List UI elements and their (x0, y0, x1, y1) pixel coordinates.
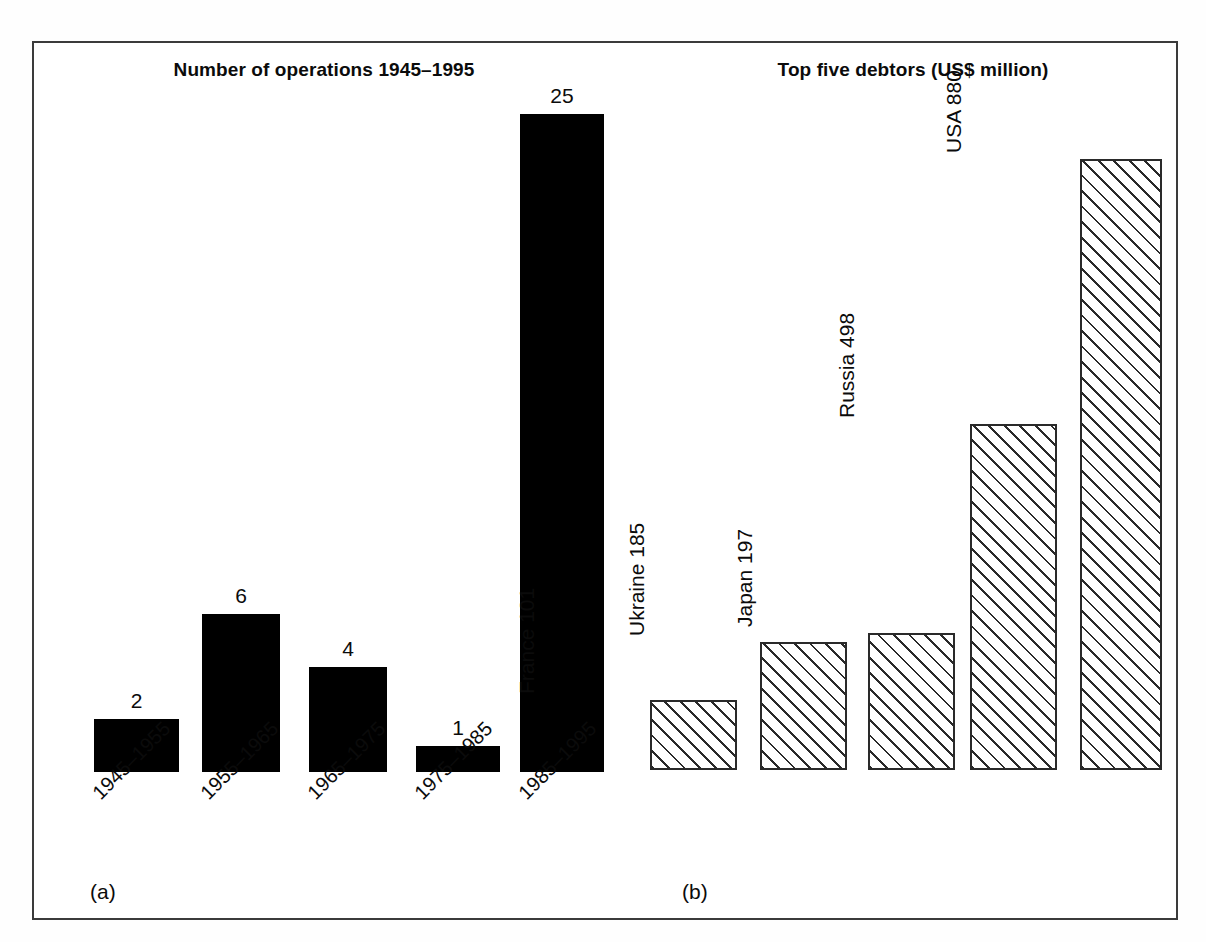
bar-label: Russia 498 (835, 313, 1025, 418)
bar-debtor-Russia (970, 424, 1057, 770)
panel-b-tag: (b) (682, 880, 708, 904)
bar-label: Japan 197 (733, 529, 923, 627)
bar-debtor-France (650, 700, 737, 770)
figure-frame: Number of operations 1945–1995 21945–195… (32, 41, 1178, 920)
bar-debtor-USA (1080, 159, 1162, 770)
figure-container: Number of operations 1945–1995 21945–195… (0, 0, 1206, 942)
bar-value-label: 4 (309, 637, 387, 661)
bar-value-label: 6 (202, 584, 280, 608)
bar-value-label: 2 (94, 689, 179, 713)
panel-b-plot: France 101Ukraine 185Japan 197Russia 498… (634, 43, 1180, 922)
panel-a: Number of operations 1945–1995 21945–195… (34, 43, 634, 922)
panel-b: Top five debtors (US$ million) France 10… (634, 43, 1180, 922)
bar-debtor-Ukraine (760, 642, 847, 770)
panel-a-plot: 21945–195561955–196541965–197511975–1985… (34, 43, 634, 922)
bar-label: USA 880 (942, 70, 1132, 153)
bar-debtor-Japan (868, 633, 955, 770)
panel-a-tag: (a) (90, 880, 116, 904)
bar-value-label: 25 (520, 84, 604, 108)
